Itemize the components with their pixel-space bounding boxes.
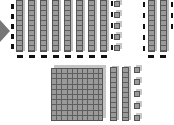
dash-border-bottom	[17, 55, 23, 58]
tens-rod	[88, 0, 95, 52]
ones-cube	[114, 34, 120, 40]
ones-cube	[114, 12, 120, 18]
dash-border-bottom	[29, 55, 35, 58]
tens-rod	[110, 67, 117, 121]
ones-cube	[134, 79, 140, 85]
tens-rod	[64, 0, 71, 52]
dash-border-bottom	[65, 55, 71, 58]
dash-border-left	[11, 24, 14, 29]
ones-cube	[134, 91, 140, 97]
ones-cube	[134, 115, 140, 121]
ones-cube	[134, 67, 140, 73]
dash-border-mid	[111, 34, 113, 39]
hundreds-flat	[51, 68, 103, 121]
dash-border-right	[171, 13, 173, 18]
dash-border-bottom	[101, 55, 107, 58]
dash-border-left	[143, 46, 145, 51]
tens-rod	[122, 67, 129, 121]
dash-border-bottom	[41, 55, 47, 58]
tens-rod	[76, 0, 83, 52]
ones-cube	[134, 103, 140, 109]
tens-rod	[16, 0, 23, 52]
dash-border-mid	[111, 23, 113, 28]
ones-cube	[114, 23, 120, 29]
dash-border-left	[11, 44, 14, 49]
dash-border-bottom	[53, 55, 59, 58]
tens-rod	[100, 0, 107, 52]
tens-rod	[28, 0, 35, 52]
dash-border-mid	[111, 1, 113, 6]
dash-border-left	[11, 14, 14, 19]
tens-rod	[148, 0, 155, 52]
tens-rod	[52, 0, 59, 52]
dash-border-mid	[111, 45, 113, 50]
dash-border-bottom	[148, 55, 154, 58]
dash-border-mid	[111, 12, 113, 17]
tens-rod	[160, 0, 167, 52]
dash-border-left	[143, 24, 145, 29]
arrow-right-icon	[0, 20, 10, 42]
dash-border-left	[143, 2, 145, 7]
dash-border-left	[143, 13, 145, 18]
dash-border-right	[171, 2, 173, 7]
tens-rod	[40, 0, 47, 52]
dash-border-bottom	[89, 55, 95, 58]
dash-border-right	[171, 24, 173, 29]
dash-border-bottom	[77, 55, 83, 58]
dash-border-bottom	[160, 55, 166, 58]
dash-border-left	[11, 34, 14, 39]
ones-cube	[114, 45, 120, 51]
dash-border-left	[143, 35, 145, 40]
dash-border-left	[11, 4, 14, 9]
ones-cube	[114, 1, 120, 7]
